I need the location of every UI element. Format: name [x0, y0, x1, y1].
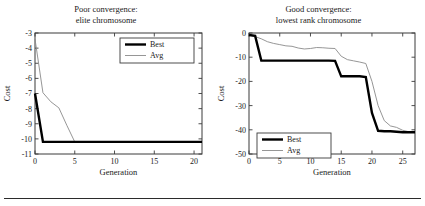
y-tick-label: -7 [25, 89, 32, 98]
y-tick-label: -5 [25, 59, 32, 68]
chart-svg-right: 05101520250-10-20-30-40-50GenerationCost… [212, 0, 425, 190]
legend-label-best: Best [287, 135, 302, 144]
y-tick-label: -20 [235, 77, 246, 86]
chart-svg-left: 05101520-3-4-5-6-7-8-9-10-11GenerationCo… [0, 0, 212, 190]
x-tick-label: 20 [368, 157, 376, 166]
legend-label-avg: Avg [150, 51, 163, 60]
y-tick-label: -11 [22, 150, 32, 159]
y-axis-title: Cost [2, 85, 12, 101]
panel-poor-convergence: Poor convergence: elite chromosome 05101… [0, 0, 212, 190]
plot-area-left: 05101520-3-4-5-6-7-8-9-10-11GenerationCo… [0, 0, 212, 190]
panel-good-convergence: Good convergence: lowest rank chromosome… [212, 0, 425, 190]
y-tick-label: -4 [25, 44, 32, 53]
figure-bottom-rule [4, 198, 421, 199]
y-tick-label: -10 [21, 135, 32, 144]
y-tick-label: -8 [25, 105, 32, 114]
series-line-best [249, 35, 415, 132]
y-tick-label: -30 [235, 102, 246, 111]
series-line-best [35, 94, 202, 142]
series-line-avg [249, 35, 415, 132]
y-tick-label: -40 [235, 126, 246, 135]
x-tick-label: 25 [399, 157, 407, 166]
y-axis-title: Cost [216, 85, 226, 101]
x-tick-label: 10 [111, 157, 119, 166]
y-tick-label: -3 [25, 29, 32, 38]
y-tick-label: -9 [25, 120, 32, 129]
x-tick-label: 15 [337, 157, 345, 166]
y-tick-label: -50 [235, 150, 246, 159]
y-tick-label: -6 [25, 74, 32, 83]
x-axis-title: Generation [100, 167, 139, 177]
plot-area-right: 05101520250-10-20-30-40-50GenerationCost… [212, 0, 425, 190]
x-tick-label: 0 [33, 157, 37, 166]
y-tick-label: -10 [235, 53, 246, 62]
x-tick-label: 15 [150, 157, 158, 166]
panel-container: Poor convergence: elite chromosome 05101… [0, 0, 425, 190]
legend-label-avg: Avg [287, 146, 300, 155]
x-tick-label: 20 [190, 157, 198, 166]
y-tick-label: 0 [242, 29, 246, 38]
figure-two-panel-convergence: Poor convergence: elite chromosome 05101… [0, 0, 425, 206]
legend-label-best: Best [150, 40, 165, 49]
x-tick-label: 5 [73, 157, 77, 166]
x-axis-title: Generation [313, 167, 352, 177]
x-tick-label: 0 [247, 157, 251, 166]
